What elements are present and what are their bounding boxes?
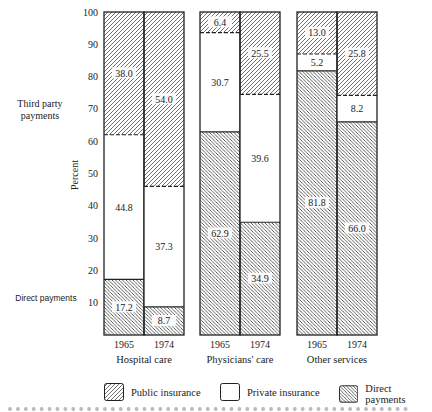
segment-value: 54.0 (155, 94, 173, 105)
x-tick-label: 1965 (114, 339, 134, 350)
legend-item-direct: Direct payments (339, 383, 432, 405)
segment-value: 37.3 (155, 241, 173, 252)
segment-value: 25.5 (251, 48, 269, 59)
hatch-backward-swatch-icon (339, 385, 358, 403)
annotation-third-party: Third party payments (10, 98, 70, 122)
legend-item-private: Private insurance (220, 383, 320, 401)
x-tick-label: 1965 (307, 339, 327, 350)
hatch-forward-swatch-icon (104, 383, 124, 401)
clipped-caption (8, 404, 428, 412)
y-axis-label: Percent (69, 160, 80, 190)
legend: Public insurance Private insurance Direc… (0, 383, 432, 401)
group-label: Hospital care (116, 354, 172, 365)
stacked-bar: 81.85.213.0 (297, 12, 337, 335)
stacked-bar: 34.939.625.5 (240, 12, 280, 335)
group-label: Other services (307, 354, 367, 365)
y-tick-label: 10 (88, 297, 98, 308)
y-tick-label: 80 (88, 71, 98, 82)
stacked-bar: 62.930.76.4 (200, 12, 240, 335)
legend-item-public: Public insurance (104, 383, 201, 401)
legend-label: Private insurance (247, 387, 320, 398)
x-tick-label: 1974 (154, 339, 174, 350)
segment-value: 34.9 (251, 273, 269, 284)
y-tick-label: 90 (88, 39, 98, 50)
y-tick-label: 40 (88, 200, 98, 211)
segment-value: 5.2 (311, 57, 324, 68)
legend-label: Public insurance (131, 387, 201, 398)
segment-value: 30.7 (211, 77, 229, 88)
stacked-bar: 8.737.354.0 (144, 12, 184, 335)
y-tick-label: 50 (88, 168, 98, 179)
legend-label: Direct payments (365, 383, 432, 405)
y-tick-label: 20 (88, 265, 98, 276)
y-tick-label: 60 (88, 136, 98, 147)
bar-group: 81.85.213.0196566.08.225.81974Other serv… (297, 12, 377, 365)
bar-group: 17.244.838.019658.737.354.01974Hospital … (104, 12, 184, 365)
segment-value: 8.2 (351, 103, 364, 114)
blank-swatch-icon (220, 383, 240, 401)
segment-value: 13.0 (308, 27, 326, 38)
stacked-bar-chart: 102030405060708090100 Percent 17.244.838… (0, 0, 432, 380)
segment-value: 44.8 (115, 202, 133, 213)
x-tick-label: 1965 (210, 339, 230, 350)
segment-value: 8.7 (158, 315, 171, 326)
segment-value: 39.6 (251, 153, 269, 164)
segment-value: 81.8 (308, 197, 326, 208)
x-tick-label: 1974 (347, 339, 367, 350)
y-tick-label: 70 (88, 103, 98, 114)
segment-value: 66.0 (348, 223, 366, 234)
stacked-bar: 66.08.225.8 (337, 12, 377, 335)
group-label: Physicians' care (207, 354, 274, 365)
y-tick-label: 30 (88, 233, 98, 244)
annotation-line: Third party (10, 98, 70, 110)
segment-value: 25.8 (348, 48, 366, 59)
segment-value: 38.0 (115, 68, 133, 79)
bar-groups: 17.244.838.019658.737.354.01974Hospital … (104, 12, 377, 365)
x-tick-label: 1974 (250, 339, 270, 350)
bar-group: 62.930.76.4196534.939.625.51974Physician… (200, 12, 280, 365)
y-axis: 102030405060708090100 (83, 7, 98, 309)
annotation-line: payments (10, 110, 70, 122)
stacked-bar: 17.244.838.0 (104, 12, 144, 335)
annotation-direct-payments: Direct payments (6, 292, 86, 304)
y-tick-label: 100 (83, 7, 98, 18)
segment-value: 62.9 (211, 228, 229, 239)
segment-value: 6.4 (214, 17, 227, 28)
segment-value: 17.2 (115, 302, 133, 313)
